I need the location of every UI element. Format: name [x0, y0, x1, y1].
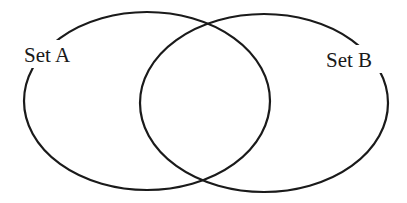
set-b-ellipse	[140, 14, 388, 192]
set-a-label: Set A	[24, 43, 71, 67]
set-a-ellipse	[24, 12, 270, 190]
set-b-label: Set B	[326, 48, 372, 72]
set-b	[140, 14, 388, 192]
venn-diagram: Set A Set B	[0, 0, 407, 203]
set-a	[24, 12, 270, 190]
